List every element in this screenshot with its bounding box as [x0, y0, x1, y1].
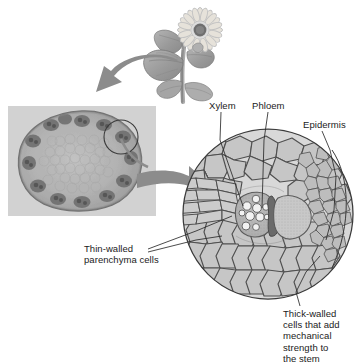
- label-xylem: Xylem: [209, 100, 236, 111]
- label-thick-walled-cells: Thick-walled cells that add mechanical s…: [283, 308, 359, 363]
- figure-title-fragment: [55, 0, 305, 3]
- figure-canvas: Xylem Phloem Epidermis Thin-walled paren…: [0, 0, 359, 363]
- label-phloem: Phloem: [252, 100, 285, 111]
- label-epidermis: Epidermis: [303, 119, 346, 130]
- arrow-plant-to-micrograph: [92, 54, 184, 110]
- label-thin-walled-parenchyma: Thin-walled parenchyma cells: [84, 243, 159, 265]
- magnified-vascular-bundle-diagram: [182, 128, 354, 300]
- phloem-region: [274, 196, 312, 239]
- highlight-connector-line: [118, 137, 152, 173]
